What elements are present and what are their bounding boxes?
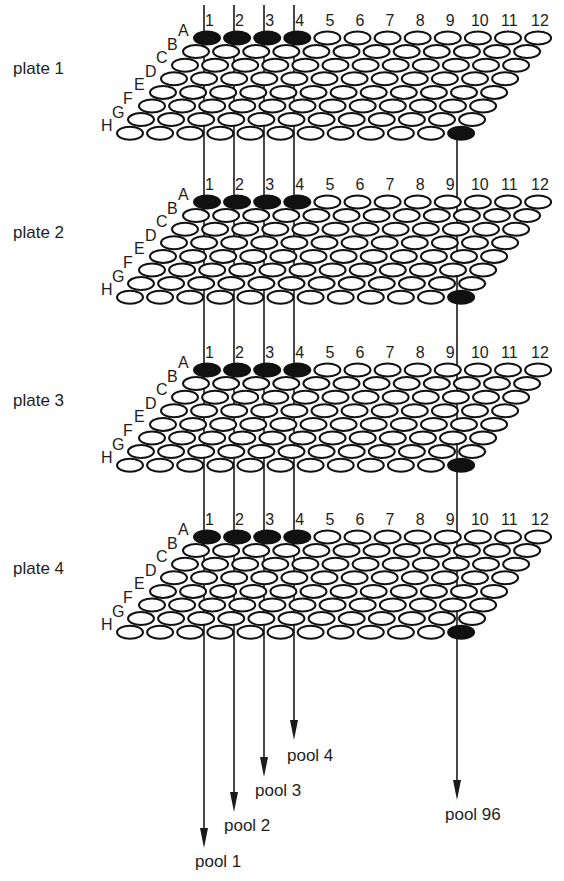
- column-label: 4: [295, 344, 304, 361]
- well-A8: [405, 364, 431, 377]
- column-label: 4: [295, 12, 304, 29]
- well-E7: [331, 250, 357, 263]
- well-D3: [221, 72, 247, 85]
- well-B2: [213, 544, 239, 557]
- well-H12: [448, 127, 474, 140]
- column-label: 3: [265, 344, 274, 361]
- well-G12: [459, 113, 485, 126]
- well-C6: [323, 391, 349, 404]
- well-F9: [380, 599, 406, 612]
- row-label: D: [145, 395, 157, 412]
- column-label: 2: [235, 176, 244, 193]
- well-G8: [339, 277, 365, 290]
- column-label: 5: [325, 511, 334, 528]
- well-F12: [470, 432, 496, 445]
- plate-label: plate 4: [13, 559, 64, 578]
- well-B3: [243, 45, 269, 58]
- well-D10: [432, 236, 458, 249]
- well-H10: [388, 459, 414, 472]
- well-C1: [172, 59, 198, 72]
- well-H5: [237, 626, 263, 639]
- well-G10: [399, 445, 425, 458]
- well-B1: [183, 45, 209, 58]
- well-H3: [177, 459, 203, 472]
- well-B1: [183, 377, 209, 390]
- well-B6: [334, 544, 360, 557]
- well-A2: [224, 32, 250, 45]
- well-A3: [254, 196, 280, 209]
- well-D8: [372, 404, 398, 417]
- well-C9: [413, 558, 439, 571]
- well-C8: [383, 223, 409, 236]
- well-G4: [218, 612, 244, 625]
- well-B4: [273, 544, 299, 557]
- well-A7: [375, 531, 401, 544]
- well-A6: [345, 364, 371, 377]
- well-F12: [470, 264, 496, 277]
- well-C3: [232, 223, 258, 236]
- row-label: C: [156, 381, 168, 398]
- well-F6: [290, 264, 316, 277]
- well-A6: [345, 32, 371, 45]
- pool-label: pool 2: [224, 816, 270, 835]
- plate-label: plate 2: [13, 223, 64, 242]
- well-C8: [383, 558, 409, 571]
- column-label: 6: [356, 511, 365, 528]
- arrow-down-icon: [453, 780, 461, 800]
- well-D9: [402, 571, 428, 584]
- well-A11: [495, 196, 521, 209]
- well-E9: [391, 250, 417, 263]
- well-H3: [177, 291, 203, 304]
- column-label: 1: [205, 12, 214, 29]
- well-C6: [323, 223, 349, 236]
- well-F10: [410, 100, 436, 113]
- well-H5: [237, 291, 263, 304]
- pool-label: pool 4: [287, 746, 333, 765]
- column-label: 8: [416, 511, 425, 528]
- well-C11: [473, 223, 499, 236]
- column-label: 9: [446, 12, 455, 29]
- well-A7: [375, 196, 401, 209]
- well-G8: [339, 445, 365, 458]
- well-B10: [454, 209, 480, 222]
- well-C5: [292, 223, 318, 236]
- well-E4: [240, 418, 266, 431]
- well-A7: [375, 364, 401, 377]
- well-A1: [194, 196, 220, 209]
- well-B5: [303, 544, 329, 557]
- well-B6: [334, 209, 360, 222]
- well-G7: [309, 113, 335, 126]
- well-A3: [254, 364, 280, 377]
- well-E7: [331, 585, 357, 598]
- plate-1: plate 1123456789101112HGFEDCBA: [13, 12, 551, 140]
- well-E2: [180, 585, 206, 598]
- well-B1: [183, 209, 209, 222]
- well-A10: [465, 32, 491, 45]
- row-label: A: [178, 521, 189, 538]
- well-D5: [281, 404, 307, 417]
- well-H5: [237, 459, 263, 472]
- well-F10: [410, 432, 436, 445]
- column-label: 2: [235, 344, 244, 361]
- column-label: 7: [386, 12, 395, 29]
- well-F12: [470, 599, 496, 612]
- well-B3: [243, 377, 269, 390]
- row-label: F: [123, 589, 133, 606]
- well-A4: [284, 531, 310, 544]
- well-E10: [421, 250, 447, 263]
- well-E2: [180, 250, 206, 263]
- well-B3: [243, 544, 269, 557]
- column-label: 6: [356, 176, 365, 193]
- row-label: H: [101, 117, 113, 134]
- column-label: 2: [235, 12, 244, 29]
- well-G6: [279, 277, 305, 290]
- well-A5: [314, 196, 340, 209]
- well-C12: [503, 223, 529, 236]
- well-C1: [172, 223, 198, 236]
- well-E5: [270, 585, 296, 598]
- well-E7: [331, 86, 357, 99]
- column-label: 12: [531, 344, 549, 361]
- row-label: D: [145, 63, 157, 80]
- well-D1: [161, 404, 187, 417]
- well-C4: [262, 59, 288, 72]
